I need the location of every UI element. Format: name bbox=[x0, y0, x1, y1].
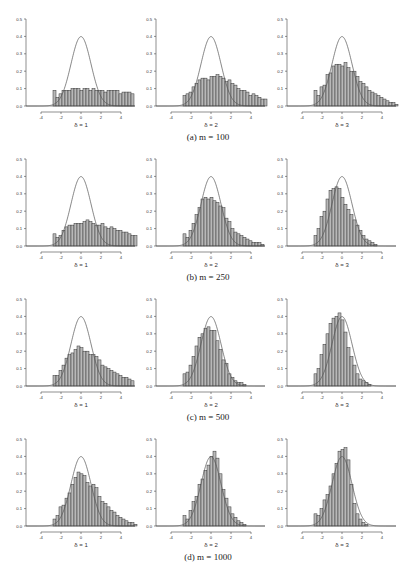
y-tick-label: 0.5 bbox=[277, 17, 283, 22]
histogram-bar bbox=[83, 222, 86, 246]
histogram-bar bbox=[380, 97, 383, 106]
histogram-bar bbox=[131, 523, 134, 526]
histogram-bar bbox=[195, 83, 198, 106]
histogram-bar bbox=[326, 75, 329, 106]
x-tick-label: 2 bbox=[361, 535, 364, 540]
histogram-bar bbox=[326, 495, 329, 526]
histogram-bar bbox=[362, 523, 365, 526]
histogram-bar bbox=[198, 80, 201, 106]
y-tick-label: 0.0 bbox=[16, 384, 22, 389]
histogram-bar bbox=[219, 76, 222, 106]
histogram-bar bbox=[237, 521, 240, 526]
histogram-bar bbox=[201, 199, 204, 246]
y-tick-label: 0.1 bbox=[16, 86, 22, 91]
x-tick-label: -2 bbox=[59, 395, 63, 400]
histogram-bar bbox=[320, 87, 323, 106]
histogram-bar bbox=[204, 197, 207, 246]
histogram-bar bbox=[65, 90, 68, 106]
histogram-bar bbox=[350, 71, 353, 106]
histogram-bar bbox=[347, 68, 350, 106]
histogram-panel: 0.00.10.20.30.40.5-4-2024δ = 3 bbox=[277, 437, 396, 549]
y-tick-label: 0.0 bbox=[146, 384, 152, 389]
x-tick-label: 0 bbox=[80, 395, 83, 400]
y-tick-label: 0.0 bbox=[277, 524, 283, 529]
histogram-bar bbox=[338, 313, 341, 386]
histogram-bar bbox=[317, 229, 320, 246]
x-axis-label: δ = 2 bbox=[204, 402, 218, 408]
y-tick-label: 0.2 bbox=[277, 489, 283, 494]
y-tick-label: 0.0 bbox=[146, 104, 152, 109]
histogram-bar bbox=[246, 92, 249, 106]
histogram-bar bbox=[222, 78, 225, 106]
histogram-bar bbox=[320, 355, 323, 386]
y-tick-label: 0.1 bbox=[16, 226, 22, 231]
histogram-bar bbox=[237, 89, 240, 106]
y-tick-label: 0.5 bbox=[146, 297, 152, 302]
histogram-bar bbox=[249, 96, 252, 106]
histogram-bar bbox=[201, 78, 204, 106]
histogram-bar bbox=[83, 351, 86, 386]
y-tick-label: 0.2 bbox=[16, 489, 22, 494]
histogram-bar bbox=[326, 334, 329, 386]
histogram-bar bbox=[222, 360, 225, 386]
subfigure-caption: (c) m = 500 bbox=[187, 412, 230, 422]
x-tick-label: -4 bbox=[169, 115, 173, 120]
histogram-bar bbox=[116, 374, 119, 386]
y-tick-label: 0.5 bbox=[146, 157, 152, 162]
histogram-bar bbox=[344, 204, 347, 246]
y-tick-label: 0.1 bbox=[277, 86, 283, 91]
y-tick-label: 0.3 bbox=[277, 51, 283, 56]
x-tick-label: 0 bbox=[210, 255, 213, 260]
x-tick-label: 2 bbox=[230, 115, 233, 120]
x-tick-label: 2 bbox=[230, 535, 233, 540]
y-tick-label: 0.2 bbox=[146, 69, 152, 74]
histogram-bar bbox=[210, 456, 213, 526]
histogram-panel: 0.00.10.20.30.40.5-4-2024δ = 3 bbox=[277, 297, 396, 409]
histogram-bar bbox=[216, 341, 219, 386]
histogram-bar bbox=[92, 89, 95, 106]
x-tick-label: -4 bbox=[39, 535, 43, 540]
histogram-bar bbox=[107, 229, 110, 246]
histogram-bar bbox=[77, 223, 80, 246]
histogram-bar bbox=[122, 92, 125, 106]
x-tick-label: 0 bbox=[341, 535, 344, 540]
histogram-bar bbox=[122, 519, 125, 526]
histogram-bar bbox=[252, 243, 255, 246]
y-tick-label: 0.1 bbox=[146, 226, 152, 231]
histogram-bar bbox=[195, 215, 198, 246]
histogram-bar bbox=[332, 318, 335, 386]
histogram-bar bbox=[213, 201, 216, 246]
histogram-bar bbox=[261, 99, 264, 106]
y-tick-label: 0.4 bbox=[277, 34, 283, 39]
x-tick-label: -2 bbox=[320, 115, 324, 120]
histogram-bar bbox=[119, 376, 122, 386]
x-axis-label: δ = 2 bbox=[204, 542, 218, 548]
histogram-bar bbox=[249, 241, 252, 246]
histogram-bar bbox=[350, 215, 353, 246]
histogram-bar bbox=[338, 189, 341, 246]
y-tick-label: 0.0 bbox=[16, 244, 22, 249]
y-tick-label: 0.3 bbox=[16, 331, 22, 336]
x-tick-label: -4 bbox=[39, 255, 43, 260]
histogram-bar bbox=[107, 507, 110, 526]
histogram-bar bbox=[104, 92, 107, 106]
x-tick-label: 0 bbox=[341, 395, 344, 400]
x-tick-label: 0 bbox=[80, 535, 83, 540]
y-tick-label: 0.4 bbox=[146, 314, 152, 319]
x-tick-label: 2 bbox=[100, 255, 103, 260]
y-tick-label: 0.3 bbox=[277, 331, 283, 336]
histogram-bar bbox=[207, 465, 210, 526]
histogram-bar bbox=[225, 363, 228, 386]
histogram-bar bbox=[356, 374, 359, 386]
y-tick-label: 0.2 bbox=[277, 209, 283, 214]
histogram-bar bbox=[368, 241, 371, 246]
histogram-bar bbox=[371, 92, 374, 106]
histogram-bar bbox=[80, 348, 83, 386]
histogram-bar bbox=[243, 237, 246, 246]
histogram-bar bbox=[110, 90, 113, 106]
x-tick-label: 2 bbox=[361, 255, 364, 260]
histogram-bar bbox=[192, 223, 195, 246]
histogram-bar bbox=[80, 474, 83, 526]
histogram-bar bbox=[92, 223, 95, 246]
histogram-bar bbox=[213, 76, 216, 106]
